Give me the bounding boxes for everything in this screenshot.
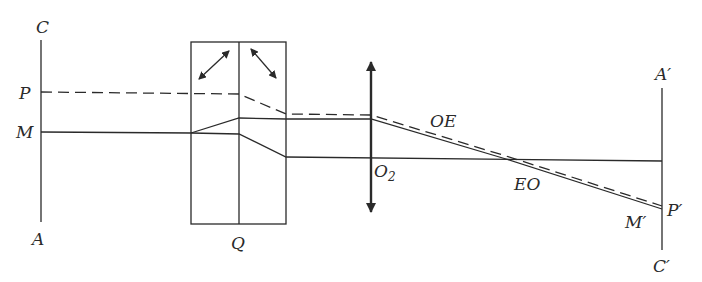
label-P-prime: P′ <box>666 200 682 220</box>
image-plane: A′ P′ M′ C′ <box>624 64 682 276</box>
label-C-prime: C′ <box>653 256 670 276</box>
prism-Q: Q <box>191 42 286 253</box>
label-Q: Q <box>231 233 245 253</box>
lens-O2: O2 <box>371 62 396 212</box>
ray-P-dashed <box>41 92 662 206</box>
label-P: P <box>18 83 31 103</box>
optic-axis-arrow-right-icon <box>251 49 276 78</box>
label-O2: O2 <box>374 161 396 184</box>
label-OE: OE <box>430 111 457 131</box>
object-plane: C P M A <box>15 17 49 249</box>
ray-M-lower <box>191 133 662 161</box>
ray-M-incoming <box>41 132 191 133</box>
label-C: C <box>36 17 49 37</box>
label-M: M <box>15 122 34 142</box>
label-A-prime: A′ <box>653 64 671 84</box>
label-A: A <box>30 229 44 249</box>
optic-axis-arrow-left-icon <box>199 51 229 79</box>
optical-diagram: C P M A Q O2 OE EO A′ P′ M′ C′ <box>0 0 702 282</box>
label-M-prime: M′ <box>624 212 646 232</box>
label-EO: EO <box>513 174 540 194</box>
